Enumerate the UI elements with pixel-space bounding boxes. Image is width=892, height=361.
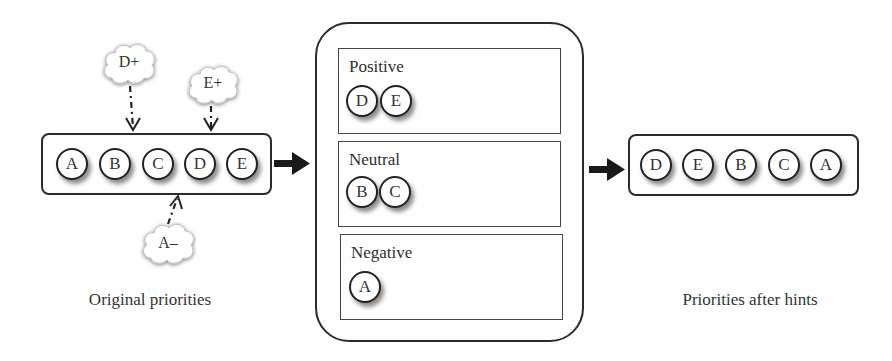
priority-node: A [810,149,842,181]
priority-node: D [640,149,672,181]
bucket-neutral: Neutral B C [338,141,561,227]
priority-node: D [184,148,216,180]
original-priorities-box: A B C D E [41,133,272,195]
flow-arrow-1 [274,152,310,175]
original-priorities-caption: Original priorities [89,290,211,310]
hint-cloud-e-plus: E+ [185,60,241,108]
hint-label: A– [139,234,197,252]
priority-node: E [682,149,714,181]
flow-arrow-2 [589,158,625,181]
priority-node: C [768,149,800,181]
priority-node: C [379,176,411,208]
priority-node: E [226,148,258,180]
priority-node: C [142,148,174,180]
priorities-after-hints-box: D E B C A [628,134,859,196]
priority-node: A [56,148,88,180]
bucket-title: Negative [351,243,412,263]
priorities-after-hints-caption: Priorities after hints [682,290,817,310]
bucket-negative: Negative A [340,234,563,320]
hint-arrow-d-plus [126,86,140,130]
bucket-positive: Positive D E [338,48,561,134]
hint-label: E+ [185,74,241,92]
priority-node: E [380,85,412,117]
priority-node: B [346,176,378,208]
hint-cloud-a-minus: A– [139,218,197,268]
priority-node: A [349,271,381,303]
priority-node: D [346,85,378,117]
bucket-title: Neutral [349,150,400,170]
hint-label: D+ [100,53,158,71]
priority-node: B [99,148,131,180]
hint-classification-box: Positive D E Neutral B C Negative A [315,22,584,342]
hint-arrow-e-plus [204,106,218,130]
priority-node: B [725,149,757,181]
bucket-title: Positive [349,57,404,77]
hint-cloud-d-plus: D+ [100,38,158,88]
